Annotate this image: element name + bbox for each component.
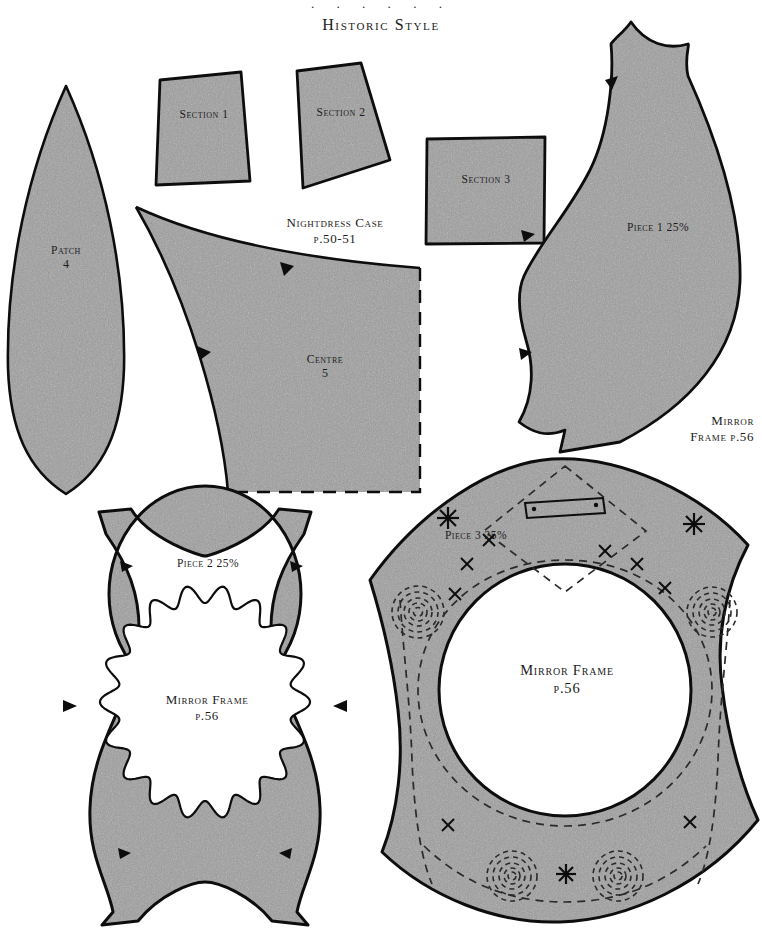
piece-section-2[interactable] [297,63,390,188]
piece1-outline [519,22,740,452]
patch-number: 4 [26,257,106,272]
notch-icon [333,700,347,712]
mirror-frame-piece2-line1: Mirror Frame [132,692,282,708]
notch-icon [63,700,77,712]
nightdress-case-line2: p.50-51 [256,231,414,247]
label-centre: Centre 5 [278,352,372,381]
label-patch: Patch 4 [26,243,106,272]
caption-mirror-frame-piece3: Mirror Frame p.56 [490,662,644,697]
patch-name: Patch [26,243,106,257]
label-section-3: Section 3 [440,172,532,186]
mirror-frame-piece3-line1: Mirror Frame [490,662,644,680]
centre-name: Centre [278,352,372,366]
centre-number: 5 [278,366,372,381]
piece-patch-4[interactable] [8,86,124,494]
section3-outline [426,137,545,244]
pattern-sheet [0,0,762,934]
mirror-frame-piece2-line2: p.56 [132,708,282,724]
piece-section-1[interactable] [156,72,250,185]
mirror-frame-right-line1: Mirror [636,413,754,429]
mirror-frame-right-line2: Frame p.56 [636,429,754,445]
label-section-1: Section 1 [158,107,250,121]
label-piece-1: Piece 1 25% [588,220,728,234]
caption-nightdress-case: Nightdress Case p.50-51 [256,215,414,247]
patch-outline [8,86,124,494]
piece-section-3[interactable] [426,137,545,244]
mirror-frame-piece3-line2: p.56 [490,680,644,698]
piece-centre-5[interactable] [136,207,420,492]
section2-outline [297,63,390,188]
nightdress-case-line1: Nightdress Case [256,215,414,231]
label-piece-2: Piece 2 25% [140,556,276,570]
caption-mirror-frame-piece2: Mirror Frame p.56 [132,692,282,724]
caption-mirror-frame-right: Mirror Frame p.56 [636,413,754,445]
label-piece-3: Piece 3 25% [416,528,536,542]
piece-1[interactable] [519,22,740,452]
label-section-2: Section 2 [295,105,387,119]
section1-outline [156,72,250,185]
